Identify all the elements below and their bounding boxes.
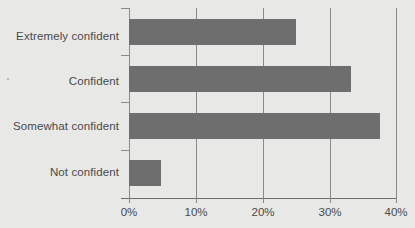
x-axis-label-20: 20% (233, 206, 293, 219)
bar-confident[interactable] (129, 66, 351, 92)
y-axis-tick-3 (121, 150, 129, 151)
bar-chart: Extremely confident Confident Somewhat c… (0, 0, 415, 228)
gridline-30 (330, 8, 331, 198)
bar-not-confident[interactable] (129, 160, 161, 186)
x-axis-label-0: 0% (99, 206, 159, 219)
x-axis-tick-20 (263, 198, 264, 203)
x-axis-label-10: 10% (166, 206, 226, 219)
category-label-somewhat-confident: Somewhat confident (0, 120, 119, 132)
category-label-confident: Confident (0, 75, 119, 87)
x-axis-tick-40 (396, 198, 397, 203)
y-axis-tick-0 (121, 8, 129, 9)
y-axis-tick-2 (121, 102, 129, 103)
category-label-not-confident: Not confident (0, 166, 119, 178)
bar-somewhat-confident[interactable] (129, 113, 380, 139)
x-axis-line (121, 198, 397, 199)
y-axis-tick-1 (121, 55, 129, 56)
x-axis-label-40: 40% (366, 206, 415, 219)
category-label-extremely-confident: Extremely confident (0, 30, 119, 42)
scan-speck (7, 78, 9, 80)
bar-extremely-confident[interactable] (129, 19, 296, 45)
plot-area (129, 8, 396, 198)
x-axis-tick-10 (196, 198, 197, 203)
gridline-40 (396, 8, 397, 198)
x-axis-tick-30 (330, 198, 331, 203)
x-axis-label-30: 30% (300, 206, 360, 219)
x-axis-tick-0 (129, 198, 130, 203)
